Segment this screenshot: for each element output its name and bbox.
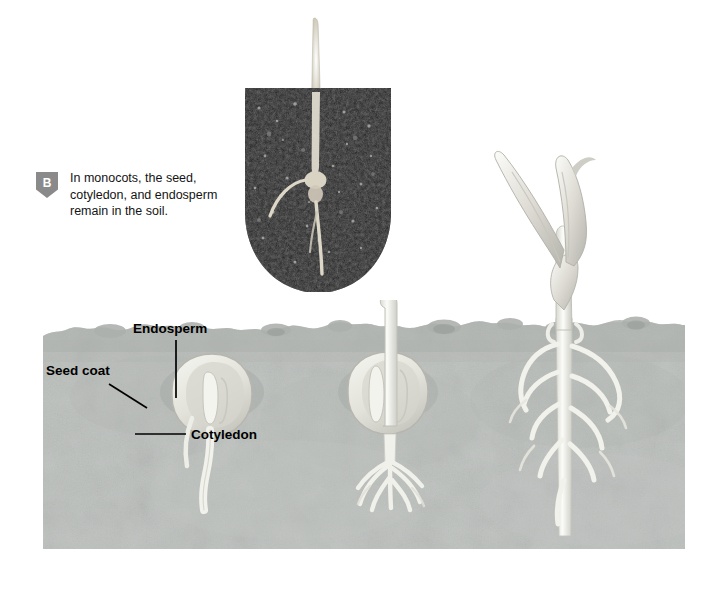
stage-2-cotyledon xyxy=(369,366,384,422)
caption-line-3: remain in the soil. xyxy=(70,203,217,220)
label-cotyledon: Cotyledon xyxy=(191,427,257,442)
stage-3-leaf-right-tip xyxy=(572,157,596,176)
label-endosperm: Endosperm xyxy=(133,321,207,336)
stage-3-leaf-right xyxy=(556,156,587,266)
caption-line-1: In monocots, the seed, xyxy=(70,170,217,187)
germinating-seed-in-soil-photo xyxy=(243,16,393,294)
photo-shoot-in-soil xyxy=(312,92,320,176)
caption-text: In monocots, the seed, cotyledon, and en… xyxy=(70,170,217,220)
step-badge-letter: B xyxy=(36,172,58,194)
caption-line-2: cotyledon, and endosperm xyxy=(70,187,217,204)
photo-soil-body xyxy=(243,86,393,294)
stage-3-leaf-left xyxy=(495,151,564,268)
germination-figure: B In monocots, the seed, cotyledon, and … xyxy=(0,0,708,594)
caption-block: B In monocots, the seed, cotyledon, and … xyxy=(36,170,246,220)
stage-1-cotyledon xyxy=(203,372,218,424)
step-badge-b: B xyxy=(36,172,58,198)
label-seed-coat: Seed coat xyxy=(46,363,110,378)
soil-cross-section-diagram xyxy=(40,300,688,552)
